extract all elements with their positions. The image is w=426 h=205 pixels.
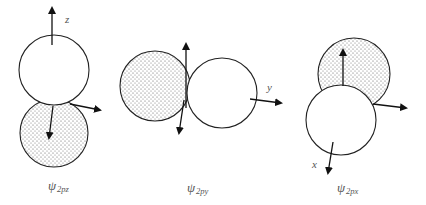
lobe-negative-shaded — [20, 99, 88, 167]
lobe-negative-shaded — [120, 51, 190, 121]
y-axis-label: y — [266, 81, 272, 93]
figure-psi-2px: x ψ2px — [306, 38, 406, 196]
lobe-positive — [19, 35, 89, 105]
lobe-positive — [187, 58, 257, 128]
horizontal-arrow-icon — [373, 104, 406, 108]
orbital-diagram: z ψ2pz y ψ2py x ψ2px — [0, 0, 426, 205]
x-axis-label: x — [311, 158, 317, 170]
lobe-positive — [306, 85, 376, 155]
z-axis-label: z — [64, 13, 70, 25]
caption-psi-2px: ψ2px — [337, 180, 359, 196]
figure-psi-2py: y ψ2py — [120, 44, 281, 196]
caption-psi-2pz: ψ2pz — [48, 178, 70, 194]
caption-psi-2py: ψ2py — [187, 180, 209, 196]
figure-psi-2pz: z ψ2pz — [19, 8, 100, 194]
